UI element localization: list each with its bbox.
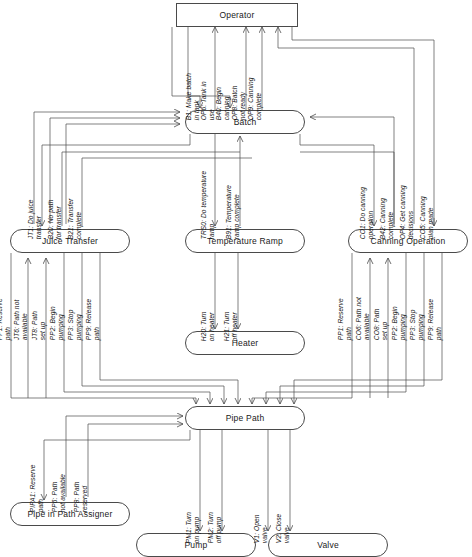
message-label-line1: PM1: Turn <box>185 512 193 543</box>
message-label-b1: B1: Make batchin tank <box>185 73 200 120</box>
message-label-line2: on pump <box>192 512 200 543</box>
message-label-trs0: TRS0: Do temperatureramp <box>200 171 215 239</box>
message-label-line2: ramp complete <box>232 185 240 239</box>
message-label-h20: H20: Turnon heater <box>200 311 215 341</box>
node-pipe-path[interactable]: Pipe Path <box>185 406 305 430</box>
message-label-line1: H20: Turn <box>200 311 208 341</box>
message-label-line1: CO6: Path not <box>355 297 363 340</box>
message-label-op4: OP4: Get canningdecisions <box>399 185 414 239</box>
message-label-line2: not available <box>58 474 66 512</box>
message-label-line1: PP8: Path <box>73 482 81 513</box>
message-label-line1: OP9: Canning <box>247 78 255 121</box>
message-label-line2: valve <box>260 515 268 544</box>
wire-jt1 <box>42 134 190 226</box>
message-label-line2: on heater <box>207 311 215 341</box>
node-operator[interactable]: Operator <box>176 3 298 27</box>
message-label-co-pp2: PP2: Beginpumping <box>391 306 406 340</box>
message-label-line1: PP2: Begin <box>391 306 399 340</box>
message-label-line1: JT8: Path <box>31 311 39 340</box>
message-label-line2: plan made <box>426 196 434 239</box>
message-label-co-pp9: PP9: Releasepath <box>427 299 442 341</box>
message-label-line2: not ready <box>238 85 246 120</box>
node-label: Valve <box>317 540 339 550</box>
message-label-line1: PIPA1: Reserve <box>29 464 37 512</box>
message-label-line1: PP3: Stop <box>409 310 417 341</box>
message-label-co-pp1: PP1: Reservepath <box>337 298 352 340</box>
message-label-line2: pumping <box>398 306 406 340</box>
message-label-line2: pumping <box>416 310 424 341</box>
message-label-jt-pp2: PP2: Beginpumping <box>49 306 64 340</box>
message-label-line1: B40: Begin <box>215 87 223 120</box>
message-label-line1: V1: Open <box>253 515 261 544</box>
message-label-pp8: PP8: Pathreserved <box>73 482 88 513</box>
message-label-line2: complete <box>74 198 82 239</box>
message-label-line1: OP8: Batch <box>231 85 239 120</box>
message-label-line1: PP6: Path <box>51 474 59 512</box>
message-label-line2: available <box>362 297 370 340</box>
message-label-line2: available <box>20 300 28 341</box>
message-label-line2: decisions <box>406 185 414 239</box>
message-label-line1: PP9: Release <box>427 299 435 341</box>
message-label-line1: CO8: Path <box>373 309 381 341</box>
message-label-line2: pumping <box>56 306 64 340</box>
message-label-line2: for transfer <box>54 199 62 239</box>
message-label-line1: OP6: Tank in <box>200 81 208 120</box>
wire-b21-into-batch <box>66 124 180 224</box>
message-label-line1: H21: Turn <box>223 311 231 341</box>
message-label-line1: B20: No path <box>47 199 55 239</box>
message-label-v1: V1: Openvalve <box>253 515 268 544</box>
message-label-co8: CO8: Pathset up <box>373 309 388 341</box>
message-label-line1: PM2: Turn <box>207 512 215 543</box>
message-label-line2: pumping <box>74 310 82 341</box>
message-label-v2: V2: Closevalve <box>275 514 290 544</box>
message-label-line2: off pump <box>214 512 222 543</box>
message-label-line2: complete <box>386 198 394 239</box>
message-label-line2: reserved <box>80 482 88 513</box>
message-label-line2: path <box>3 298 11 340</box>
message-label-line2: set up <box>38 311 46 340</box>
message-label-op9: OP9: Canningcomplete <box>247 78 262 121</box>
message-label-line2: set up <box>380 309 388 341</box>
message-label-h21: H21: Turnoff heater <box>223 311 238 341</box>
message-label-jt-pp3: PP3: Stoppumping <box>67 310 82 341</box>
message-label-jt-pp1: PP1: Reservepath <box>0 298 11 340</box>
message-label-line2: off heater <box>230 311 238 341</box>
message-label-pm2: PM2: Turnoff pump <box>207 512 222 543</box>
message-label-pipa1: PIPA1: Reservepath <box>29 464 44 512</box>
message-label-line1: PP1: Reserve <box>337 298 345 340</box>
message-label-op8: OP8: Batchnot ready <box>231 85 246 120</box>
message-label-co1: CO1: Do canningoperation <box>359 187 374 239</box>
message-label-co-pp3: PP3: Stoppumping <box>409 310 424 341</box>
message-label-line2: path <box>36 464 44 512</box>
node-label: Temperature Ramp <box>207 236 283 246</box>
message-label-pp6: PP6: Pathnot available <box>51 474 66 512</box>
message-label-line1: B1: Make batch <box>185 73 193 120</box>
message-label-line2: path <box>434 299 442 341</box>
message-label-line1: CO1: Do canning <box>359 187 367 239</box>
message-label-line2: path <box>92 299 100 341</box>
message-label-pm1: PM1: Turnon pump <box>185 512 200 543</box>
message-label-line1: B21: Transfer <box>67 198 75 239</box>
message-label-line1: PP3: Stop <box>67 310 75 341</box>
message-label-b40: B40: Begincanning <box>215 87 230 120</box>
node-label: Operator <box>219 10 254 20</box>
message-label-b91: B91: Temperatureramp complete <box>225 185 240 239</box>
message-label-line1: JT6: Path not <box>13 300 21 341</box>
message-label-co6: CO6: Path notavailable <box>355 297 370 340</box>
message-label-line1: V2: Close <box>275 514 283 544</box>
wire-jt-pp9 <box>100 253 186 380</box>
message-label-line2: path <box>344 298 352 340</box>
message-flow-diagram: OperatorBatchJuice TransferTemperature R… <box>0 0 472 557</box>
message-label-line1: OP4: Get canning <box>399 185 407 239</box>
message-label-line1: TRS0: Do temperature <box>200 171 208 239</box>
message-label-line1: PP2: Begin <box>49 306 57 340</box>
message-label-line2: ramp <box>207 171 215 239</box>
wire-pp8-into-pipepath <box>88 424 183 497</box>
message-label-line1: B42: Canning <box>379 198 387 239</box>
message-label-b21: B21: Transfercomplete <box>67 198 82 239</box>
message-label-jt1: JT1: Do juicetransfer <box>27 199 42 239</box>
message-label-jt6: JT6: Path notavailable <box>13 300 28 341</box>
message-label-line2: complete <box>254 78 262 121</box>
message-label-line1: B91: Temperature <box>225 185 233 239</box>
message-label-line1: CO5: Canning <box>419 196 427 239</box>
